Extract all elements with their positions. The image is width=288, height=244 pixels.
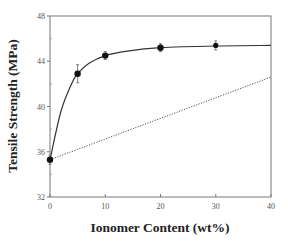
x-tick-label: 30 [212, 202, 220, 211]
axis-ticks: 3236404448010203040 [37, 12, 275, 211]
y-tick-label: 36 [37, 148, 45, 157]
x-tick-label: 0 [48, 202, 52, 211]
y-tick-label: 40 [37, 103, 45, 112]
data-point [102, 52, 108, 58]
x-tick-label: 40 [267, 202, 275, 211]
data-point [47, 156, 53, 162]
x-tick-label: 20 [157, 202, 165, 211]
x-axis-title: Ionomer Content (wt%) [90, 220, 229, 235]
data-series [47, 41, 271, 164]
y-tick-label: 32 [37, 193, 45, 202]
data-point [213, 43, 218, 48]
x-tick-label: 10 [101, 202, 109, 211]
plot-frame [50, 16, 271, 197]
fitted-curve [50, 45, 271, 159]
data-point [74, 70, 80, 76]
tensile-strength-chart: 3236404448010203040 Ionomer Content (wt%… [0, 0, 288, 244]
y-tick-label: 44 [37, 57, 45, 66]
y-tick-label: 48 [37, 12, 45, 21]
y-axis-title: Tensile Strength (MPa) [5, 39, 20, 173]
plot-border [50, 16, 271, 197]
additivity-line [50, 77, 271, 160]
data-point [157, 44, 163, 50]
